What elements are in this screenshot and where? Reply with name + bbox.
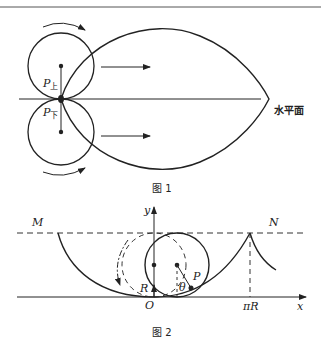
lower-center-dot xyxy=(59,130,63,134)
figure-1: P上 P下 水平面 图 1 xyxy=(19,23,304,194)
label-theta: θ xyxy=(179,281,186,294)
physics-diagram: P上 P下 水平面 图 1 M N y x O xyxy=(0,0,321,340)
rotation-arrow-top-icon xyxy=(43,23,85,30)
label-x: x xyxy=(297,300,304,313)
figure-2-caption: 图 2 xyxy=(152,327,172,338)
label-pi-r: πR xyxy=(242,300,259,313)
cycloid-curve-right xyxy=(250,233,276,270)
label-p: P xyxy=(192,270,201,283)
upper-center-dot xyxy=(59,64,63,68)
label-o: O xyxy=(145,299,154,312)
initial-center-dot xyxy=(152,263,157,268)
label-p-lower: P下 xyxy=(42,106,58,120)
figure-2: M N y x O R P θ πR 图 2 xyxy=(17,204,306,338)
point-p-dot xyxy=(189,286,194,291)
label-y: y xyxy=(143,204,151,217)
rotation-arrow-icon xyxy=(117,240,128,285)
figure-1-caption: 图 1 xyxy=(152,183,172,194)
label-m: M xyxy=(31,216,44,229)
horizontal-surface-label: 水平面 xyxy=(273,104,304,116)
label-n: N xyxy=(268,216,279,229)
label-r: R xyxy=(139,282,148,295)
rotation-arrow-bottom-icon xyxy=(43,168,85,175)
label-p-upper: P上 xyxy=(42,77,58,91)
